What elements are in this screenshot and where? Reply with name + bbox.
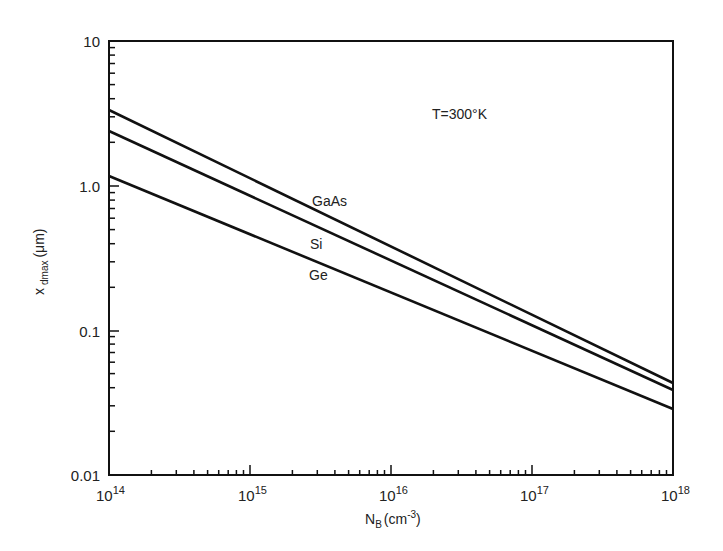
curve-label-ge: Ge <box>309 267 328 283</box>
y-tick-0-01: 0.01 <box>71 467 100 484</box>
curve-label-gaas: GaAs <box>312 193 347 209</box>
curve-si <box>109 131 673 390</box>
curve-gaas <box>109 110 673 383</box>
x-tick-labels: 1014 1015 1016 1017 1018 <box>96 484 690 504</box>
y-tick-10: 10 <box>83 33 100 50</box>
y-tick-0-1: 0.1 <box>79 323 100 340</box>
x-tick-1e14: 1014 <box>96 484 125 504</box>
y-tick-1: 1.0 <box>79 178 100 195</box>
x-tick-1e16: 1016 <box>379 484 408 504</box>
x-tick-1e17: 1017 <box>520 484 549 504</box>
curve-ge <box>109 176 673 409</box>
depletion-width-chart: GaAs Si Ge T=300°K 10 1.0 0.1 0.01 1014 … <box>0 0 723 551</box>
curves <box>109 110 673 409</box>
plot-frame <box>109 41 673 475</box>
y-axis-ticks <box>109 48 119 432</box>
x-axis-ticks <box>151 465 666 475</box>
y-axis-title: xdmax(μm) <box>31 228 50 295</box>
curve-label-si: Si <box>310 236 322 252</box>
x-tick-1e18: 1018 <box>661 484 690 504</box>
temperature-annotation: T=300°K <box>432 106 488 122</box>
x-tick-1e15: 1015 <box>238 484 267 504</box>
x-axis-title: NB(cm-3) <box>365 509 421 530</box>
